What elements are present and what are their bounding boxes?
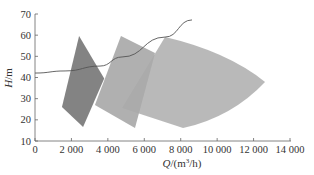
y-tick-label: 30 [21, 93, 32, 104]
y-tick-label: 20 [21, 114, 32, 125]
svg-text:Q/(m3/h): Q/(m3/h) [163, 157, 202, 170]
x-axis-title: Q/(m3/h) [163, 157, 202, 170]
x-tick-label: 8 000 [169, 144, 193, 155]
y-tick-label: 60 [21, 30, 32, 41]
x-tick-label: 0 [32, 144, 37, 155]
y-tick-label: 10 [21, 136, 32, 147]
svg-text:H/m: H/m [2, 68, 14, 89]
x-tick-label: 10 000 [203, 144, 232, 155]
x-ticks: 02 0004 0006 0008 00010 00012 00014 000 [32, 138, 304, 155]
y-tick-label: 40 [21, 72, 32, 83]
x-tick-label: 4 000 [96, 144, 120, 155]
x-tick-label: 2 000 [60, 144, 84, 155]
x-tick-label: 12 000 [239, 144, 268, 155]
y-axis-title: H/m [2, 68, 14, 89]
pump-regions [62, 36, 265, 128]
y-tick-label: 70 [21, 9, 32, 20]
y-tick-label: 50 [21, 51, 32, 62]
pump-region-1 [62, 36, 104, 127]
x-tick-label: 14 000 [276, 144, 305, 155]
chart: 10203040506070 02 0004 0006 0008 00010 0… [0, 0, 314, 175]
x-tick-label: 6 000 [132, 144, 156, 155]
